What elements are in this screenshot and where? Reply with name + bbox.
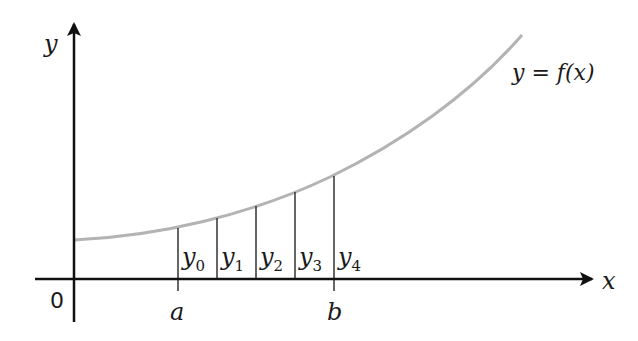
ordinate-label-y3: y3 [298,243,322,275]
ordinate-label-y2: y2 [259,243,283,275]
curve-f-of-x [74,35,522,240]
ordinate-label-y4: y4 [337,243,361,275]
origin-label: 0 [50,288,64,313]
ordinate-label-y0: y0 [181,243,205,275]
y-axis-label: y [43,30,58,58]
interval-end-label: b [327,298,342,326]
curve-label: y = f(x) [511,60,595,85]
interval-start-label: a [170,298,184,326]
ordinate-label-y1: y1 [220,243,244,275]
x-axis-label: x [602,267,616,295]
diagram-canvas: y x 0 a b y = f(x) y0 y1 y2 y3 y4 [0,0,638,341]
